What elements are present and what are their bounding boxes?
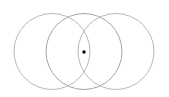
figure-background [0,0,169,97]
geometric-figure-svg [0,0,169,97]
center-point-dot [82,50,85,53]
geometric-figure-container [0,0,169,97]
